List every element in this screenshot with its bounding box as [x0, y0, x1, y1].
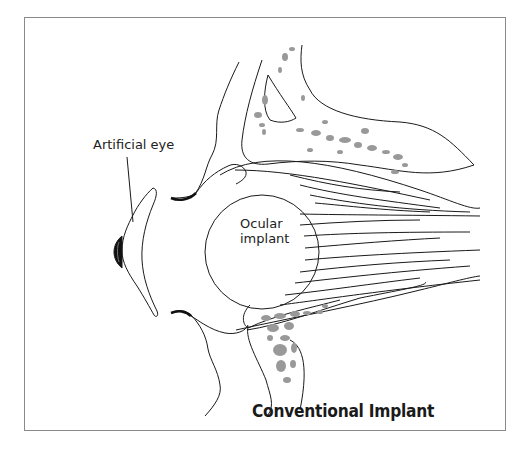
- upper-lid-outline: [171, 62, 239, 198]
- label-ocular-implant-line1: Ocular: [240, 216, 289, 231]
- lower-fornix: [191, 316, 248, 334]
- label-ocular-implant-line2: implant: [240, 231, 289, 246]
- ocular-implant: [205, 195, 319, 309]
- label-artificial-eye: Artificial eye: [93, 137, 174, 152]
- figure-title: Conventional Implant: [252, 400, 434, 421]
- lower-lid-outline: [171, 311, 220, 416]
- artificial-eye-pointer: [127, 157, 133, 222]
- lower-orbital-bone: [243, 282, 425, 415]
- label-ocular-implant: Ocular implant: [240, 216, 289, 246]
- artificial-eye-shape: [114, 188, 158, 316]
- upper-fornix: [196, 164, 246, 193]
- upper-orbital-bone: [242, 45, 474, 174]
